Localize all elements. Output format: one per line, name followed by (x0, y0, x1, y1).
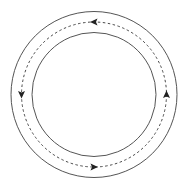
inner-circle (32, 33, 156, 157)
annular-flow-diagram (0, 0, 185, 188)
top-arrow-icon (90, 19, 98, 26)
left-arrow-icon (18, 91, 25, 99)
dashed-flow-path (22, 22, 167, 167)
outer-circle (11, 12, 177, 178)
flow-arrows (18, 19, 170, 171)
